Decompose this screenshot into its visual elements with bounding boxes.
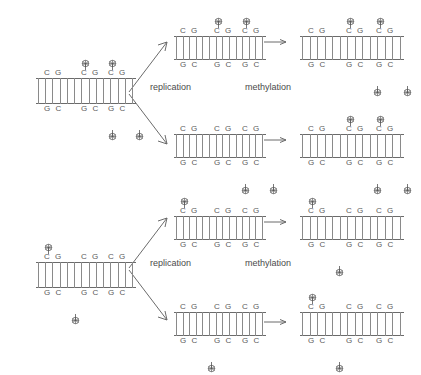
methyl-group-icon bbox=[344, 15, 355, 26]
dna-rung bbox=[229, 134, 230, 158]
arrow-right-row1-lower bbox=[264, 136, 290, 144]
dna-rung bbox=[332, 134, 333, 158]
methyl-group-icon bbox=[306, 195, 317, 206]
dna-base-pair-rungs bbox=[36, 78, 136, 104]
dna-rung bbox=[249, 36, 250, 60]
methyl-group-icon bbox=[221, 166, 232, 177]
dna-rung bbox=[110, 262, 111, 288]
dna-rung bbox=[377, 134, 378, 158]
dna-rung bbox=[229, 36, 230, 60]
dna-rung bbox=[347, 312, 348, 336]
methyl-group-icon bbox=[353, 68, 364, 79]
dna-base-pair-rungs bbox=[36, 262, 136, 288]
dna-rung bbox=[255, 216, 256, 240]
methyl-group-icon bbox=[42, 241, 53, 252]
dna-rung bbox=[340, 36, 341, 60]
dna-rung bbox=[125, 78, 126, 104]
dna-rung bbox=[400, 216, 401, 240]
base-pair-label-top: C G bbox=[308, 124, 327, 133]
dna-rung bbox=[302, 134, 303, 158]
dna-rung bbox=[362, 216, 363, 240]
base-pair-label-top: C G bbox=[242, 302, 261, 311]
dna-rung bbox=[332, 312, 333, 336]
dna-rung bbox=[249, 134, 250, 158]
methyl-group-icon bbox=[212, 15, 223, 26]
dna-rung bbox=[302, 216, 303, 240]
dna-rung bbox=[355, 312, 356, 336]
methyl-group-icon bbox=[240, 15, 251, 26]
dna-rung bbox=[118, 262, 119, 288]
dna-rung bbox=[385, 216, 386, 240]
dna-rung bbox=[196, 216, 197, 240]
dna-rung bbox=[377, 36, 378, 60]
dna-rung bbox=[96, 262, 97, 288]
dna-rung bbox=[400, 36, 401, 60]
dna-rung bbox=[370, 36, 371, 60]
base-pair-label-bottom: G C bbox=[108, 288, 127, 297]
dna-duplex-row2-daughter-lower: C GG CC GG CC GG C bbox=[174, 312, 266, 336]
label-methylation-row1: methylation bbox=[245, 82, 291, 92]
dna-rung bbox=[89, 78, 90, 104]
dna-rung bbox=[347, 36, 348, 60]
base-pair-label-top: C G bbox=[214, 206, 233, 215]
dna-rung bbox=[209, 36, 210, 60]
base-pair-label-bottom: G C bbox=[308, 158, 327, 167]
methyl-group-icon bbox=[353, 166, 364, 177]
dna-duplex-row2-parent: C GG CC GG CC GG C bbox=[36, 262, 136, 288]
dna-rung bbox=[302, 312, 303, 336]
dna-rung bbox=[222, 134, 223, 158]
dna-rung bbox=[183, 134, 184, 158]
dna-rung bbox=[325, 216, 326, 240]
methyl-group-icon bbox=[88, 112, 99, 123]
dna-rung bbox=[176, 134, 177, 158]
dna-rung bbox=[110, 78, 111, 104]
dna-base-pair-rungs bbox=[174, 36, 266, 60]
base-pair-label-bottom: G C bbox=[242, 240, 261, 249]
dna-rung bbox=[392, 216, 393, 240]
base-pair-label-bottom: G C bbox=[346, 336, 365, 345]
dna-rung bbox=[392, 36, 393, 60]
dna-rung bbox=[242, 36, 243, 60]
dna-duplex-row1-product-lower: C GG CC GG CC GG C bbox=[300, 134, 404, 158]
dna-base-pair-rungs bbox=[300, 134, 404, 158]
dna-rung bbox=[249, 216, 250, 240]
dna-rung bbox=[132, 262, 133, 288]
base-pair-label-bottom: G C bbox=[242, 336, 261, 345]
dna-base-pair-rungs bbox=[300, 36, 404, 60]
base-pair-label-bottom: G C bbox=[242, 60, 261, 69]
dna-rung bbox=[255, 36, 256, 60]
methyl-group-icon bbox=[383, 68, 394, 79]
dna-rung bbox=[355, 134, 356, 158]
dna-rung bbox=[262, 312, 263, 336]
dna-rung bbox=[176, 216, 177, 240]
dna-duplex-row2-product-upper: C GG CC GG CC GG C bbox=[300, 216, 404, 240]
dna-rung bbox=[229, 312, 230, 336]
dna-rung bbox=[362, 134, 363, 158]
dna-rung bbox=[370, 216, 371, 240]
dna-rung bbox=[317, 216, 318, 240]
base-pair-label-top: C G bbox=[108, 252, 127, 261]
methyl-group-icon bbox=[306, 291, 317, 302]
dna-duplex-row2-daughter-upper: C GG CC GG CC GG C bbox=[174, 216, 266, 240]
dna-rung bbox=[176, 36, 177, 60]
base-pair-label-top: C G bbox=[214, 124, 233, 133]
base-pair-label-top: C G bbox=[242, 124, 261, 133]
methyl-group-icon bbox=[115, 112, 126, 123]
dna-rung bbox=[222, 216, 223, 240]
base-pair-label-top: C G bbox=[81, 252, 100, 261]
base-pair-label-top: C G bbox=[180, 124, 199, 133]
base-pair-label-bottom: G C bbox=[308, 60, 327, 69]
base-pair-label-bottom: G C bbox=[346, 240, 365, 249]
dna-rung bbox=[183, 216, 184, 240]
dna-rung bbox=[236, 312, 237, 336]
dna-rung bbox=[202, 134, 203, 158]
dna-rung bbox=[325, 312, 326, 336]
dna-rung bbox=[262, 36, 263, 60]
dna-rung bbox=[236, 36, 237, 60]
dna-rung bbox=[340, 134, 341, 158]
base-pair-label-bottom: G C bbox=[214, 240, 233, 249]
dna-rung bbox=[242, 216, 243, 240]
methyl-group-icon bbox=[344, 113, 355, 124]
dna-base-pair-rungs bbox=[300, 216, 404, 240]
